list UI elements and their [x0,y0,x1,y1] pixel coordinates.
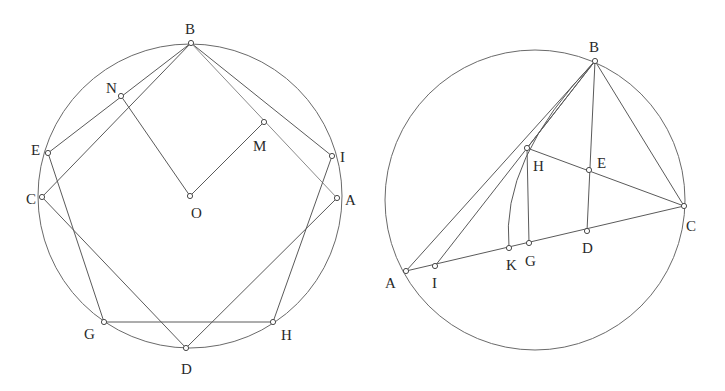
segment-IH [273,156,332,322]
left-figure-circle-pentagon: BNMEICOAGHD [26,21,356,377]
label-H: H [281,327,292,343]
label-K: K [506,257,517,273]
label-B: B [589,39,599,55]
label-A: A [385,275,396,291]
point-G [526,240,531,245]
point-I [329,153,334,158]
arc-KB [508,61,595,248]
label-N: N [106,80,117,96]
label-D: D [582,240,593,256]
point-D [584,228,589,233]
label-I: I [432,275,437,291]
point-B [188,40,193,45]
segment-AC [406,206,684,271]
segment-OM [190,122,264,196]
label-E: E [597,155,606,171]
label-E: E [31,142,40,158]
label-C: C [26,191,36,207]
segment-BD [587,61,595,231]
point-D [183,345,188,350]
label-G: G [525,253,536,269]
segment-HG [527,148,529,243]
right-circle [385,50,685,350]
geometry-diagram: BNMEICOAGHD BHECDGKIA [0,0,725,391]
point-A [403,268,408,273]
point-M [261,119,266,124]
point-E [586,167,591,172]
right-figure-circle-triangle: BHECDGKIA [385,39,696,350]
label-B: B [185,21,195,37]
point-C [39,194,44,199]
label-D: D [181,361,192,377]
point-N [118,93,123,98]
point-E [45,150,50,155]
point-O [187,193,192,198]
segment-AD [186,198,337,348]
point-I [432,263,437,268]
label-C: C [686,218,696,234]
label-A: A [345,192,356,208]
point-A [334,195,339,200]
point-G [101,319,106,324]
label-G: G [84,326,95,342]
point-H [270,319,275,324]
segment-BC [595,61,684,206]
segment-BC [42,43,191,197]
segment-NO [121,96,190,196]
label-I: I [340,149,345,165]
point-C [681,203,686,208]
label-O: O [191,205,202,221]
label-H: H [533,158,544,174]
point-K [506,245,511,250]
point-H [524,145,529,150]
segment-CD [42,197,186,348]
label-M: M [253,138,266,154]
point-B [592,58,597,63]
